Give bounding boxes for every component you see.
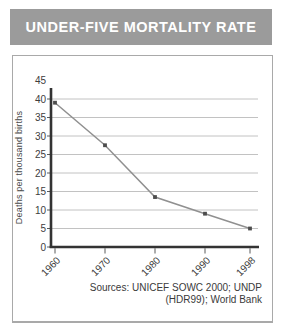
x-tick-label: 1970 (89, 254, 113, 278)
data-point (248, 227, 252, 231)
y-tick-label: 45 (35, 75, 47, 86)
y-tick-label: 0 (40, 242, 46, 253)
y-tick-label: 40 (35, 94, 47, 105)
y-tick-label: 5 (40, 223, 46, 234)
chart-title: UNDER-FIVE MORTALITY RATE (26, 19, 257, 35)
x-tick-label: 1980 (139, 254, 163, 278)
y-axis-title: Deaths per thousand births (14, 111, 24, 225)
y-tick-label: 10 (35, 205, 47, 216)
under-five-mortality-line-chart: 05101520253035404519601970198019901998De… (13, 56, 272, 280)
source-note: Sources: UNICEF SOWC 2000; UNDP (HDR99);… (13, 282, 272, 306)
chart-header: UNDER-FIVE MORTALITY RATE (10, 9, 272, 45)
data-point (203, 212, 207, 216)
chart-panel: 05101520253035404519601970198019901998De… (12, 55, 273, 323)
y-tick-label: 25 (35, 149, 47, 160)
data-point (103, 143, 107, 147)
x-tick-label: 1998 (234, 254, 258, 278)
source-line-2: (HDR99); World Bank (13, 294, 262, 306)
data-point (153, 195, 157, 199)
x-tick-label: 1960 (39, 254, 63, 278)
y-tick-label: 15 (35, 186, 47, 197)
y-tick-label: 20 (35, 168, 47, 179)
mortality-rate-widget: UNDER-FIVE MORTALITY RATE 05101520253035… (0, 0, 285, 330)
y-tick-label: 35 (35, 112, 47, 123)
x-tick-label: 1990 (189, 254, 213, 278)
source-line-1: Sources: UNICEF SOWC 2000; UNDP (13, 282, 262, 294)
y-tick-label: 30 (35, 131, 47, 142)
data-point (53, 101, 57, 105)
